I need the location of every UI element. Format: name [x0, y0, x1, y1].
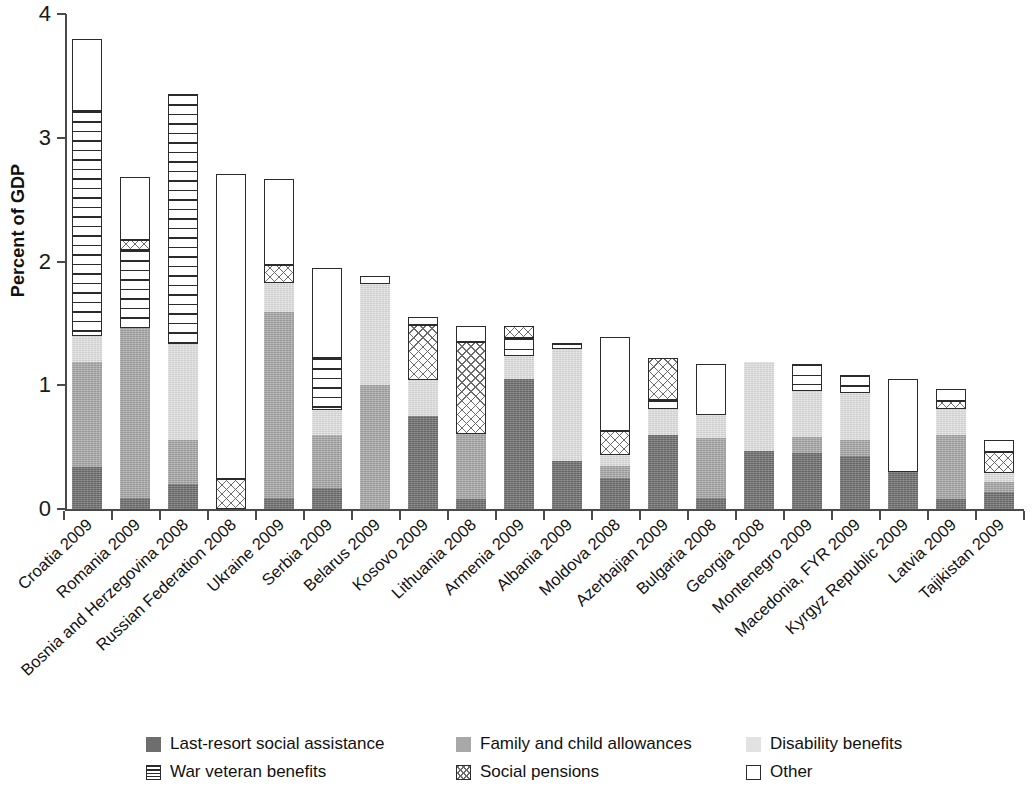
- legend-label: Disability benefits: [770, 734, 902, 754]
- bar-segment: [72, 362, 102, 467]
- bar-segment: [408, 380, 438, 416]
- bar-segment: [72, 39, 102, 111]
- bar-segment: [360, 284, 390, 385]
- bar-segment: [216, 174, 246, 480]
- legend-label: Family and child allowances: [480, 734, 692, 754]
- bar: [984, 440, 1014, 509]
- y-tick-mark: [57, 137, 66, 139]
- legend-item: Disability benefits: [746, 734, 946, 754]
- bar-segment: [72, 467, 102, 509]
- x-tick-mark: [879, 511, 881, 520]
- bar: [504, 326, 534, 509]
- x-tick-mark: [687, 511, 689, 520]
- x-tick-mark: [207, 511, 209, 520]
- bar-segment: [504, 379, 534, 509]
- bar-segment: [504, 356, 534, 380]
- bar-segment: [264, 498, 294, 509]
- bar-segment: [600, 431, 630, 455]
- bar-segment: [264, 283, 294, 313]
- bar-segment: [552, 461, 582, 509]
- bar-segment: [888, 472, 918, 509]
- lastresort-swatch-icon: [146, 737, 161, 752]
- y-tick-label: 4: [39, 3, 51, 25]
- bar-segment: [696, 438, 726, 497]
- stacked-bar-chart: Percent of GDP 01234 Croatia 2009Romania…: [0, 0, 1032, 794]
- x-tick-mark: [159, 511, 161, 520]
- x-tick-mark: [111, 511, 113, 520]
- bar-segment: [264, 312, 294, 498]
- socialpension-swatch-icon: [456, 765, 471, 780]
- legend-row-1: Last-resort social assistanceFamily and …: [146, 730, 946, 758]
- bar-segment: [456, 499, 486, 509]
- bar-segment: [696, 415, 726, 439]
- bar-segment: [984, 452, 1014, 473]
- bar-segment: [840, 440, 870, 456]
- bar: [360, 276, 390, 509]
- bar: [408, 317, 438, 509]
- bar-segment: [552, 349, 582, 460]
- bar: [648, 358, 678, 509]
- warveteran-swatch-icon: [146, 765, 161, 780]
- bar-segment: [456, 326, 486, 342]
- bar: [72, 39, 102, 509]
- bar-segment: [360, 276, 390, 283]
- y-tick-label: 3: [39, 127, 51, 149]
- bar-segment: [792, 437, 822, 453]
- bar-segment: [648, 435, 678, 509]
- y-tick-mark: [57, 261, 66, 263]
- bar-segment: [792, 364, 822, 391]
- x-tick-mark: [591, 511, 593, 520]
- bar-segment: [216, 479, 246, 509]
- bar-segment: [600, 478, 630, 509]
- legend-item: Other: [746, 762, 946, 782]
- disability-swatch-icon: [746, 737, 761, 752]
- y-tick-label: 1: [39, 374, 51, 396]
- bar: [696, 364, 726, 509]
- legend-item: Family and child allowances: [456, 734, 746, 754]
- legend-item: Last-resort social assistance: [146, 734, 456, 754]
- bar-segment: [936, 409, 966, 435]
- bar: [600, 337, 630, 509]
- x-tick-mark: [639, 511, 641, 520]
- family-swatch-icon: [456, 737, 471, 752]
- x-tick-mark: [255, 511, 257, 520]
- bar: [264, 179, 294, 509]
- bar-segment: [600, 466, 630, 478]
- bar-segment: [312, 358, 342, 410]
- bar-segment: [888, 379, 918, 472]
- y-tick-label: 0: [39, 498, 51, 520]
- legend-label: Social pensions: [480, 762, 599, 782]
- bar-segment: [408, 325, 438, 381]
- bar-segment: [312, 488, 342, 509]
- other-swatch-icon: [746, 765, 761, 780]
- bar-segment: [120, 328, 150, 498]
- x-tick-mark: [543, 511, 545, 520]
- y-tick-mark: [57, 384, 66, 386]
- x-tick-mark: [447, 511, 449, 520]
- bar: [744, 362, 774, 509]
- legend-item: War veteran benefits: [146, 762, 456, 782]
- bar: [120, 91, 150, 509]
- bar-segment: [840, 393, 870, 440]
- y-tick-label: 2: [39, 251, 51, 273]
- bar-segment: [408, 416, 438, 509]
- plot-area: 01234: [66, 14, 1024, 509]
- bar-segment: [552, 343, 582, 349]
- bar-segment: [648, 358, 678, 400]
- x-tick-mark: [783, 511, 785, 520]
- bar-segment: [936, 389, 966, 401]
- bar-segment: [168, 94, 198, 344]
- legend-label: Last-resort social assistance: [170, 734, 384, 754]
- bar-segment: [360, 385, 390, 509]
- legend-row-2: War veteran benefitsSocial pensionsOther: [146, 758, 946, 786]
- bar-segment: [312, 435, 342, 488]
- bar-segment: [840, 375, 870, 392]
- bar-segment: [504, 326, 534, 338]
- bar-segment: [648, 409, 678, 435]
- bar-segment: [408, 317, 438, 324]
- bar: [888, 379, 918, 509]
- x-tick-mark: [399, 511, 401, 520]
- x-tick-mark: [975, 511, 977, 520]
- bar-segment: [744, 362, 774, 451]
- x-tick-mark: [63, 511, 65, 520]
